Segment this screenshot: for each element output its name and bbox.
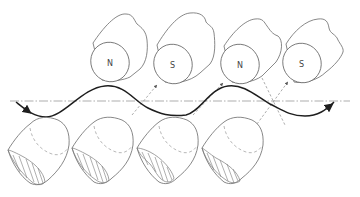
trajectory-arrow-right bbox=[326, 106, 330, 109]
lower-block-3 bbox=[137, 117, 198, 183]
particle-trajectory bbox=[16, 86, 334, 117]
upper-magnet-3: N bbox=[214, 19, 282, 91]
pole-label-n: N bbox=[107, 59, 113, 68]
block-body bbox=[202, 117, 263, 183]
field-arrow-2 bbox=[193, 84, 222, 115]
lower-block-2 bbox=[72, 117, 133, 183]
pole-label-s: S bbox=[170, 61, 175, 70]
lower-block-4 bbox=[202, 117, 263, 183]
pole-label-n: N bbox=[237, 61, 243, 70]
upper-magnet-4: S bbox=[276, 19, 344, 90]
block-body bbox=[72, 117, 133, 183]
block-body bbox=[8, 117, 69, 184]
pole-label-s: S bbox=[299, 60, 304, 69]
upper-magnet-1: N bbox=[84, 14, 148, 89]
lower-block-1 bbox=[8, 117, 69, 184]
field-arrow-3 bbox=[257, 83, 287, 124]
field-arrows bbox=[132, 78, 287, 125]
undulator-diagram: N S N S bbox=[0, 0, 360, 197]
upper-magnet-2: S bbox=[147, 13, 215, 91]
